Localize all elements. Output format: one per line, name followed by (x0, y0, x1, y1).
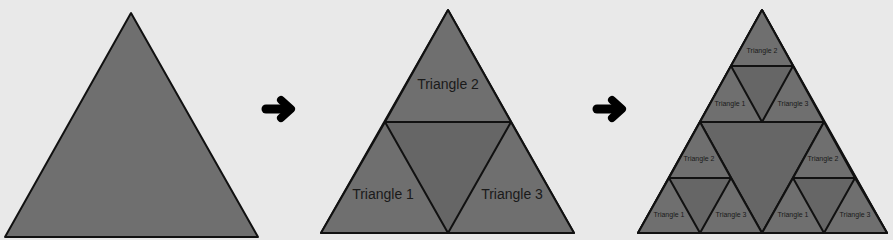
stage-1 (5, 13, 258, 237)
stage-3: Triangle 2 Triangle 1 Triangle 3 Triangl… (638, 10, 887, 233)
triangle-whole (5, 13, 258, 237)
triangle-2 (385, 10, 511, 122)
label-right-triangle-2: Triangle 2 (808, 155, 839, 163)
label-top-triangle-2: Triangle 2 (747, 47, 778, 55)
label-triangle-3: Triangle 3 (481, 186, 543, 202)
label-triangle-1: Triangle 1 (352, 186, 414, 202)
arrow-right-icon (597, 100, 622, 118)
arrow-right-icon (266, 100, 291, 118)
label-left-triangle-3: Triangle 3 (716, 211, 747, 219)
label-top-triangle-1: Triangle 1 (715, 100, 746, 108)
label-left-triangle-2: Triangle 2 (684, 155, 715, 163)
sierpinski-diagram: Triangle 2 Triangle 1 Triangle 3 Triangl… (0, 0, 893, 240)
label-triangle-2: Triangle 2 (417, 76, 479, 92)
label-right-triangle-3: Triangle 3 (840, 211, 871, 219)
label-top-triangle-3: Triangle 3 (778, 100, 809, 108)
label-left-triangle-1: Triangle 1 (654, 211, 685, 219)
label-right-triangle-1: Triangle 1 (778, 211, 809, 219)
stage-2: Triangle 2 Triangle 1 Triangle 3 (321, 10, 574, 233)
